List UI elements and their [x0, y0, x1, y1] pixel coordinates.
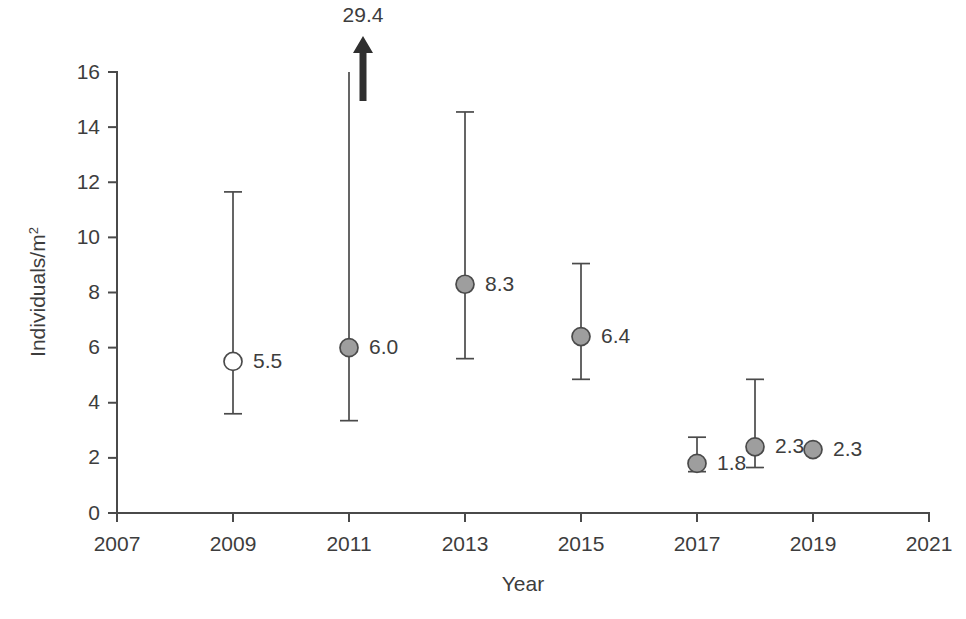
data-point-label: 6.4 — [601, 324, 631, 347]
y-axis-title-superscript: 2 — [26, 227, 41, 234]
data-points-layer: 5.529.46.08.36.41.82.32.3 — [224, 3, 862, 474]
data-marker-filled — [688, 454, 706, 472]
scatter-plot-with-error-bars: 0246810121416 20072009201120132015201720… — [0, 0, 966, 619]
data-point-group: 1.8 — [688, 437, 746, 474]
x-tick-label: 2007 — [94, 532, 141, 555]
data-marker-filled — [746, 438, 764, 456]
y-tick-label: 2 — [88, 445, 100, 468]
data-point-label: 2.3 — [775, 434, 804, 457]
x-tick-label: 2019 — [790, 532, 837, 555]
y-tick-label: 4 — [88, 390, 100, 413]
data-marker-filled — [572, 328, 590, 346]
x-axis-ticks: 20072009201120132015201720192021 — [94, 513, 953, 555]
x-tick-label: 2013 — [442, 532, 489, 555]
x-tick-label: 2021 — [906, 532, 953, 555]
y-tick-label: 0 — [88, 501, 100, 524]
x-tick-label: 2015 — [558, 532, 605, 555]
truncated-ci-arrow-icon — [353, 36, 373, 101]
data-point-group: 2.3 — [804, 437, 862, 460]
data-point-group: 5.5 — [224, 192, 282, 414]
data-point-label: 1.8 — [717, 451, 746, 474]
data-point-label: 5.5 — [253, 349, 282, 372]
y-axis-ticks: 0246810121416 — [77, 60, 117, 524]
data-point-label: 6.0 — [369, 335, 398, 358]
data-point-group: 2.3 — [746, 379, 804, 467]
data-point-label: 2.3 — [833, 437, 862, 460]
x-tick-label: 2017 — [674, 532, 721, 555]
data-marker-filled — [804, 441, 822, 459]
y-tick-label: 6 — [88, 335, 100, 358]
data-marker-open — [224, 352, 242, 370]
data-point-group: 6.4 — [572, 264, 631, 380]
y-tick-label: 14 — [77, 115, 101, 138]
x-tick-label: 2011 — [326, 532, 371, 555]
y-axis-title: Individuals/m2 — [26, 227, 49, 357]
data-point-label: 8.3 — [485, 272, 514, 295]
y-tick-label: 8 — [88, 280, 100, 303]
chart-container: 0246810121416 20072009201120132015201720… — [0, 0, 966, 619]
y-axis-title-text: Individuals/m — [26, 234, 49, 357]
data-point-group: 8.3 — [456, 112, 514, 359]
data-marker-filled — [456, 275, 474, 293]
data-point-group: 29.46.0 — [340, 3, 398, 421]
truncated-ci-arrow-label: 29.4 — [343, 3, 384, 26]
x-tick-label: 2009 — [210, 532, 257, 555]
data-marker-filled — [340, 339, 358, 357]
y-tick-label: 16 — [77, 60, 100, 83]
x-axis-title: Year — [502, 572, 544, 595]
y-tick-label: 10 — [77, 225, 100, 248]
y-tick-label: 12 — [77, 170, 100, 193]
